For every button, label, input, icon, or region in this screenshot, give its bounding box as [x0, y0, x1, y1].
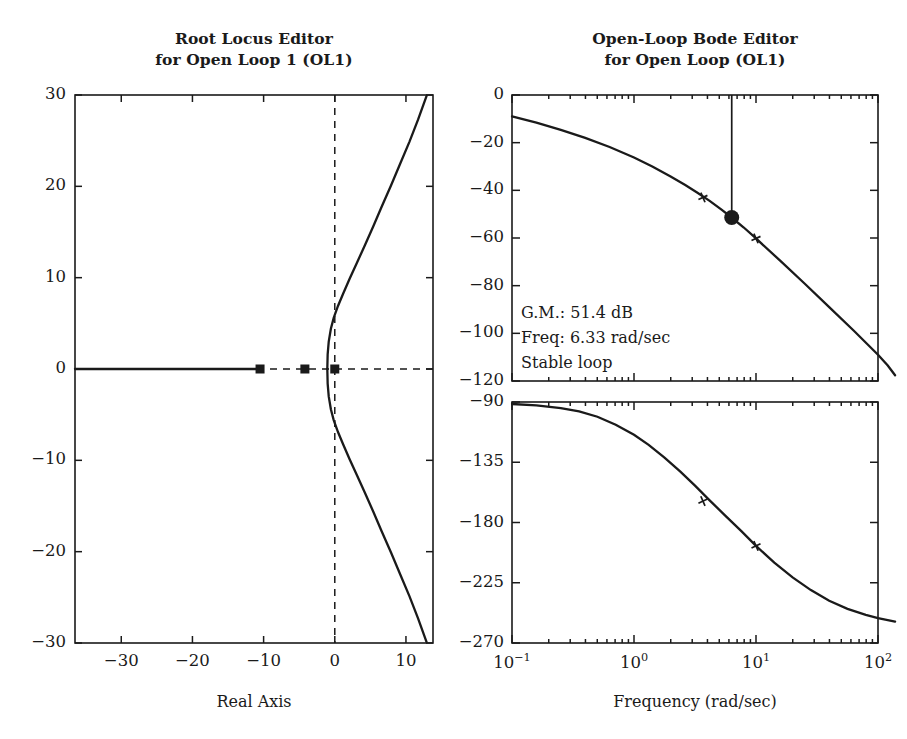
root-locus-y-tick: −30: [0, 632, 66, 651]
bode-x-tick: 10−1: [472, 651, 552, 672]
bode-magnitude-y-tick: −80: [420, 275, 504, 294]
pole-marker[interactable]: [330, 365, 339, 374]
bode-title-line2: for Open Loop (OL1): [512, 49, 878, 70]
bode-phase-y-tick: −135: [420, 451, 504, 470]
bode-phase-canvas[interactable]: [512, 402, 878, 643]
root-locus-y-tick: −10: [0, 449, 66, 468]
root-locus-title-line1: Root Locus Editor: [75, 28, 433, 49]
bode-phase-y-tick: −90: [420, 391, 504, 410]
bode-magnitude-y-tick: −20: [420, 132, 504, 151]
root-locus-x-tick: 0: [300, 651, 370, 670]
root-locus-y-tick: 0: [0, 358, 66, 377]
root-locus-x-axis-label: Real Axis: [75, 692, 433, 711]
bode-phase-y-tick: −225: [420, 572, 504, 591]
bode-magnitude-y-tick: −40: [420, 179, 504, 198]
bode-phase-y-tick: −180: [420, 512, 504, 531]
root-locus-x-tick: 10: [371, 651, 441, 670]
bode-phase-plot[interactable]: [512, 402, 878, 643]
root-locus-y-tick: 20: [0, 175, 66, 194]
pole-marker[interactable]: [256, 365, 265, 374]
bode-title: Open-Loop Bode Editor for Open Loop (OL1…: [512, 28, 878, 70]
root-locus-x-tick: −20: [157, 651, 227, 670]
bode-magnitude-y-tick: 0: [420, 84, 504, 103]
bode-magnitude-y-tick: −100: [420, 322, 504, 341]
root-locus-canvas[interactable]: [75, 95, 433, 643]
root-locus-y-tick: 30: [0, 84, 66, 103]
bode-phase-y-tick: −270: [420, 632, 504, 651]
stability-text: Stable loop: [521, 350, 670, 375]
margin-frequency-text: Freq: 6.33 rad/sec: [521, 325, 670, 350]
root-locus-x-tick: −10: [229, 651, 299, 670]
root-locus-x-tick: −30: [86, 651, 156, 670]
bode-title-line1: Open-Loop Bode Editor: [512, 28, 878, 49]
locus-branch-lower-branch[interactable]: [327, 369, 426, 642]
locus-branch-upper-branch[interactable]: [327, 96, 426, 369]
bode-x-tick: 102: [838, 651, 907, 672]
pole-marker[interactable]: [300, 365, 309, 374]
gain-margin-marker[interactable]: [724, 210, 739, 225]
root-locus-y-tick: 10: [0, 267, 66, 286]
phase-curve[interactable]: [512, 404, 895, 622]
bode-x-axis-label: Frequency (rad/sec): [512, 692, 878, 711]
gain-margin-text: G.M.: 51.4 dB: [521, 300, 670, 325]
bode-x-tick: 100: [594, 651, 674, 672]
root-locus-plot[interactable]: [75, 95, 433, 643]
root-locus-title: Root Locus Editor for Open Loop 1 (OL1): [75, 28, 433, 70]
root-locus-y-tick: −20: [0, 541, 66, 560]
margin-annotation: G.M.: 51.4 dB Freq: 6.33 rad/sec Stable …: [521, 300, 670, 375]
bode-x-tick: 101: [716, 651, 796, 672]
bode-magnitude-y-tick: −120: [420, 370, 504, 389]
root-locus-title-line2: for Open Loop 1 (OL1): [75, 49, 433, 70]
bode-magnitude-y-tick: −60: [420, 227, 504, 246]
